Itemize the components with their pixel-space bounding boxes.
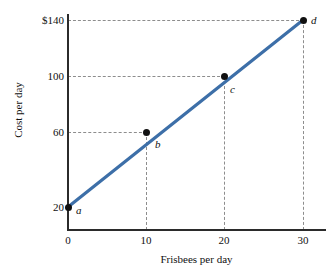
data-point-label-c: c (230, 84, 235, 95)
x-tick-label-0: 0 (48, 234, 88, 246)
y-tick-100-wrap: 100 (0, 71, 64, 82)
x-tick-label-10: 10 (126, 234, 166, 246)
cost-per-day-line-chart: $140 100 60 20 0 10 20 30 a b c d Frisbe… (0, 0, 336, 274)
data-point-b (143, 129, 150, 136)
y-tick-60-wrap: 60 (0, 127, 64, 138)
y-tick-label-140: $140 (42, 15, 64, 26)
data-point-d (300, 17, 307, 24)
data-point-label-d: d (311, 15, 317, 26)
data-point-label-b: b (155, 139, 161, 150)
data-point-a (65, 204, 72, 211)
y-tick-140-wrap: $140 (0, 15, 64, 26)
x-tick-label-20: 20 (204, 234, 244, 246)
y-axis-title: Cost per day (12, 65, 24, 155)
y-tick-label-60: 60 (53, 127, 64, 138)
data-point-label-a: a (76, 205, 82, 216)
total-cost-line (68, 20, 303, 207)
y-tick-label-100: 100 (48, 71, 65, 82)
y-tick-20-wrap: 20 (0, 202, 64, 213)
data-point-c (221, 73, 228, 80)
x-axis-title: Frisbees per day (67, 253, 326, 265)
y-tick-label-20: 20 (53, 202, 64, 213)
x-tick-label-30: 30 (283, 234, 323, 246)
